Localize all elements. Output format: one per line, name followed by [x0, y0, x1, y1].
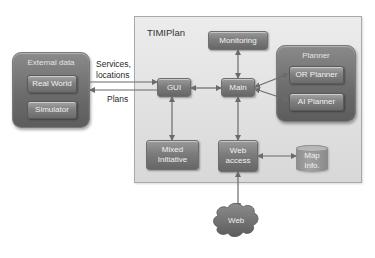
mixed-initiative-node[interactable]: Mixed Initiative — [146, 140, 199, 170]
monitoring-label: Monitoring — [219, 36, 256, 46]
or-planner-node[interactable]: OR Planner — [289, 66, 344, 84]
timiplan-title: TIMIPlan — [147, 27, 185, 38]
map-info-label-line2: Info. — [304, 161, 320, 171]
simulator-node[interactable]: Simulator — [27, 101, 77, 119]
or-planner-label: OR Planner — [296, 70, 338, 80]
real-world-label: Real World — [32, 79, 71, 89]
web-access-label-line2: access — [226, 156, 251, 166]
planner-title: Planner — [277, 51, 355, 60]
simulator-label: Simulator — [35, 105, 69, 115]
mixed-initiative-label-line2: Initiative — [158, 155, 187, 165]
gui-node[interactable]: GUI — [157, 78, 191, 97]
web-access-label-line1: Web — [230, 146, 246, 156]
gui-label: GUI — [167, 83, 181, 93]
ai-planner-label: AI Planner — [298, 97, 335, 107]
services-locations-label: Services, locations — [96, 59, 131, 81]
architecture-diagram: TIMIPlan External data Real World Simula… — [0, 0, 375, 258]
real-world-node[interactable]: Real World — [27, 75, 77, 93]
external-data-title: External data — [13, 58, 89, 67]
ai-planner-node[interactable]: AI Planner — [289, 93, 344, 111]
mixed-initiative-label-line1: Mixed — [162, 145, 183, 155]
external-data-group: External data Real World Simulator — [12, 52, 90, 128]
planner-group: Planner OR Planner AI Planner — [276, 45, 356, 122]
web-access-node[interactable]: Web access — [218, 140, 258, 172]
map-info-label-line1: Map — [304, 151, 320, 161]
monitoring-node[interactable]: Monitoring — [208, 31, 268, 50]
plans-label: Plans — [107, 94, 128, 105]
map-info-database[interactable]: Map Info. — [296, 145, 328, 172]
main-node[interactable]: Main — [221, 78, 255, 97]
main-label: Main — [229, 83, 246, 93]
web-cloud-label: Web — [228, 216, 244, 225]
